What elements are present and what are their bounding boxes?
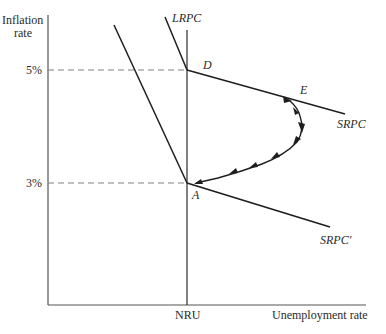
srpc-prime-label: SRPC′ xyxy=(320,233,351,247)
point-a-label: A xyxy=(192,188,199,202)
lrpc-label: LRPC xyxy=(172,11,201,25)
srpc-label: SRPC xyxy=(337,117,366,131)
y-tick-5pct: 5% xyxy=(26,63,42,77)
point-e-label: E xyxy=(300,83,307,97)
x-axis-label: Unemployment rate xyxy=(272,308,368,322)
adjustment-path xyxy=(196,101,302,183)
srpc-line xyxy=(187,70,345,114)
srpc-prime-line xyxy=(187,183,330,227)
y-tick-3pct: 3% xyxy=(26,176,42,190)
y-axis-label-line2: rate xyxy=(14,26,32,40)
phillips-curve-diagram xyxy=(0,0,386,334)
point-d-label: D xyxy=(203,58,212,72)
y-axis-label-line1: Inflation xyxy=(2,13,43,27)
x-tick-nru: NRU xyxy=(175,308,200,322)
path-arrows xyxy=(194,96,305,184)
steep-segment-a xyxy=(114,25,187,183)
